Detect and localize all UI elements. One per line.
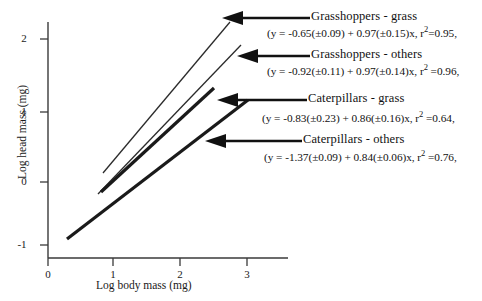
annotation-label-grasshoppers-others: Grasshoppers - others bbox=[311, 47, 422, 62]
arrow-grasshoppers-others bbox=[237, 49, 310, 63]
annotation-equation-grasshoppers-others: (y = -0.92(±0.11) + 0.97(±0.14)x, r2 =0.… bbox=[267, 65, 459, 77]
y-tick-label-2: 2 bbox=[14, 32, 34, 44]
annotation-equation-grasshoppers-grass: (y = -0.65(±0.09) + 0.97(±0.15)x, r2=0.9… bbox=[267, 27, 457, 39]
equation-prefix-grasshoppers-others: (y = -0.92(±0.11) + 0.97(±0.14)x, r bbox=[267, 65, 424, 77]
equation-prefix-caterpillars-others: (y = -1.37(±0.09) + 0.84(±0.06)x, r bbox=[264, 151, 421, 163]
annotation-caterpillars-others: Caterpillars - others bbox=[303, 132, 404, 147]
y-axis-title: Log head mass (mg) bbox=[16, 72, 28, 192]
annotation-label-grasshoppers-grass: Grasshoppers - grass bbox=[311, 9, 417, 24]
annotation-label-caterpillars-others: Caterpillars - others bbox=[303, 132, 404, 147]
annotation-caterpillars-grass: Caterpillars - grass bbox=[308, 91, 404, 106]
equation-prefix-grasshoppers-grass: (y = -0.65(±0.09) + 0.97(±0.15)x, r bbox=[267, 27, 424, 39]
annotation-grasshoppers-grass: Grasshoppers - grass bbox=[311, 9, 417, 24]
x-tick-label-3: 3 bbox=[237, 268, 257, 280]
equation-suffix-grasshoppers-grass: =0.95, bbox=[428, 27, 457, 39]
equation-prefix-caterpillars-grass: (y = -0.83(±0.23) + 0.86(±0.16)x, r bbox=[262, 112, 419, 124]
equation-suffix-grasshoppers-others: =0.96, bbox=[428, 65, 459, 77]
equation-suffix-caterpillars-grass: =0.64, bbox=[423, 112, 454, 124]
regression-line-grasshoppers-others bbox=[98, 45, 241, 194]
annotation-label-caterpillars-grass: Caterpillars - grass bbox=[308, 91, 404, 106]
arrow-caterpillars-grass bbox=[217, 93, 307, 107]
equation-suffix-caterpillars-others: =0.76, bbox=[425, 151, 456, 163]
x-tick-label-0: 0 bbox=[38, 268, 58, 280]
annotation-grasshoppers-others: Grasshoppers - others bbox=[311, 47, 422, 62]
regression-figure: 2 1 0 -1 0 1 2 3 Log body mass (mg) Log … bbox=[0, 0, 482, 301]
annotation-equation-caterpillars-grass: (y = -0.83(±0.23) + 0.86(±0.16)x, r2 =0.… bbox=[262, 112, 455, 124]
y-tick-label-neg1: -1 bbox=[11, 238, 33, 250]
regression-line-caterpillars-others bbox=[67, 100, 248, 239]
regression-line-grasshoppers-grass bbox=[103, 22, 230, 173]
x-axis-title: Log body mass (mg) bbox=[96, 279, 192, 291]
arrow-grasshoppers-grass bbox=[222, 11, 310, 25]
arrow-caterpillars-others bbox=[205, 134, 302, 148]
annotation-equation-caterpillars-others: (y = -1.37(±0.09) + 0.84(±0.06)x, r2 =0.… bbox=[264, 151, 457, 163]
